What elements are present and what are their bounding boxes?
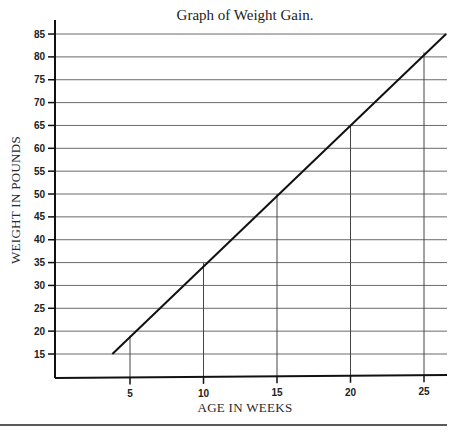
y-tick-label: 50 xyxy=(34,189,46,200)
y-tick-label: 65 xyxy=(34,120,46,131)
x-tick-label: 15 xyxy=(271,387,283,398)
x-axis xyxy=(55,375,447,378)
y-tick-label: 15 xyxy=(34,349,46,360)
x-tick-label: 10 xyxy=(198,388,210,399)
x-axis-ticks: 510152025 xyxy=(127,375,430,399)
y-tick-label: 20 xyxy=(34,326,46,337)
x-axis-label: AGE IN WEEKS xyxy=(197,400,292,415)
x-tick-label: 5 xyxy=(127,388,133,399)
y-tick-label: 45 xyxy=(34,211,46,222)
y-tick-label: 55 xyxy=(34,166,46,177)
y-tick-label: 30 xyxy=(34,280,46,291)
y-tick-label: 35 xyxy=(34,257,46,268)
y-tick-label: 85 xyxy=(34,29,46,40)
x-tick-label: 20 xyxy=(345,387,357,398)
y-tick-label: 25 xyxy=(34,303,46,314)
y-tick-label: 70 xyxy=(34,97,46,108)
y-tick-label: 40 xyxy=(34,234,46,245)
drop-lines xyxy=(130,52,424,377)
y-axis-ticks: 152025303540455055606570758085 xyxy=(34,29,55,360)
y-axis-label: WEIGHT IN POUNDS xyxy=(8,136,23,264)
horizontal-gridlines xyxy=(55,34,447,354)
chart-title: Graph of Weight Gain. xyxy=(177,7,314,23)
y-tick-label: 80 xyxy=(34,51,46,62)
x-tick-label: 25 xyxy=(418,386,430,397)
y-tick-label: 60 xyxy=(34,143,46,154)
y-tick-label: 75 xyxy=(34,74,46,85)
weight-gain-chart: Graph of Weight Gain. 152025303540455055… xyxy=(0,0,459,433)
